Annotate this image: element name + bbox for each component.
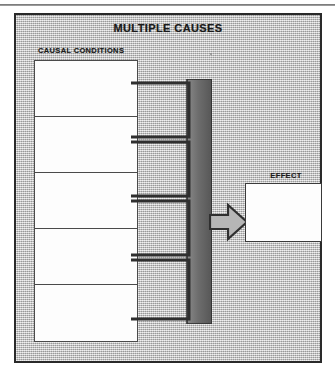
causal-condition-box[interactable]	[35, 61, 137, 117]
multiple-causes-panel: MULTIPLE CAUSES CAUSAL CONDITIONS EFFECT	[14, 13, 322, 363]
comb-bracket-icon	[129, 79, 212, 324]
causal-condition-box[interactable]	[35, 285, 137, 341]
causes-to-effect-arrow	[209, 202, 249, 242]
bracket-prong	[131, 260, 189, 319]
causal-conditions-label: CAUSAL CONDITIONS	[38, 46, 124, 55]
bracket-prong	[131, 142, 189, 196]
top-divider-rule	[0, 4, 335, 6]
effect-label: EFFECT	[248, 171, 324, 180]
causal-conditions-stack	[34, 60, 138, 342]
causal-condition-box[interactable]	[35, 173, 137, 229]
scan-speck	[210, 53, 212, 55]
bracket-prong	[131, 201, 189, 255]
comb-bracket-connector	[129, 79, 212, 324]
diagram-canvas: MULTIPLE CAUSES CAUSAL CONDITIONS EFFECT	[0, 0, 335, 382]
panel-title: MULTIPLE CAUSES	[16, 22, 320, 34]
causal-condition-box[interactable]	[35, 117, 137, 173]
bracket-prong	[131, 83, 189, 137]
causal-condition-box[interactable]	[35, 229, 137, 285]
effect-box[interactable]	[245, 183, 322, 242]
right-arrow-icon	[209, 202, 249, 242]
